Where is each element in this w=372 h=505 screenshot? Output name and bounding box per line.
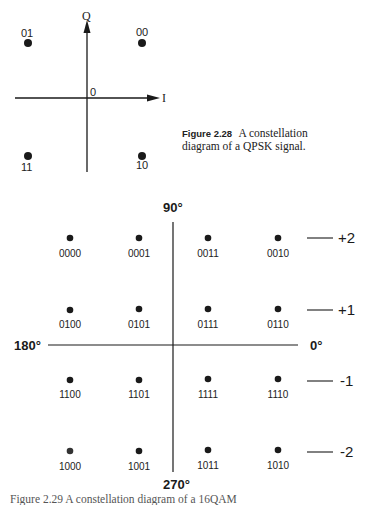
angle-label-270: 270° — [163, 477, 190, 492]
qam-point-label: 0000 — [50, 248, 90, 259]
angle-label-0: 0° — [310, 338, 322, 353]
qam-point-label: 0001 — [119, 248, 159, 259]
qam-point-label: 1111 — [188, 389, 228, 400]
qam-point-label: 0110 — [258, 319, 298, 330]
figure-caption-16qam-partial: Figure 2.29 A constellation diagram of a… — [10, 493, 237, 505]
qam-point-label: 0010 — [258, 248, 298, 259]
qam-point-label: 0111 — [188, 319, 228, 330]
qam-point-label: 1010 — [258, 460, 298, 471]
level-label: +2 — [338, 229, 355, 246]
qam-point-label: 0101 — [119, 319, 159, 330]
level-label: -2 — [340, 443, 353, 460]
qam-point-label: 1100 — [50, 389, 90, 400]
angle-label-90: 90° — [163, 200, 183, 215]
qam-point-label: 0011 — [188, 248, 228, 259]
qam-point-label: 1000 — [50, 461, 90, 472]
angle-label-180: 180° — [14, 338, 41, 353]
qam-point-label: 1011 — [188, 460, 228, 471]
qam-point-label: 1001 — [119, 461, 159, 472]
qam-point-label: 1110 — [258, 389, 298, 400]
qam-point-label: 0100 — [50, 319, 90, 330]
level-label: -1 — [340, 372, 353, 389]
qam-point-label: 1101 — [119, 389, 159, 400]
level-label: +1 — [338, 301, 355, 318]
